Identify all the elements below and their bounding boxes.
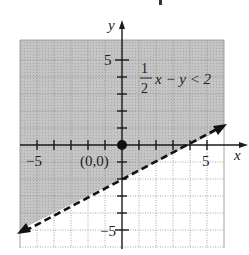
test-point-origin [117,140,127,150]
x-tick-label-neg5: −5 [26,153,42,169]
x-tick-label-5: 5 [202,153,210,169]
y-axis-arrow-icon [119,20,125,29]
inequality-text: x − y < 2 [154,71,212,87]
inequality-graph: y x −5 5 5 −5 (0,0) 1 2 x − y < 2 [0,0,249,255]
y-tick-label-5: 5 [104,52,112,68]
fraction-numerator: 1 [141,61,148,76]
fraction-denominator: 2 [141,81,148,96]
origin-label: (0,0) [80,153,109,170]
x-axis-label: x [233,147,241,163]
y-axis-label: y [106,17,115,33]
cropped-text-fragment [159,0,162,5]
y-tick-label-neg5: −5 [100,223,116,239]
